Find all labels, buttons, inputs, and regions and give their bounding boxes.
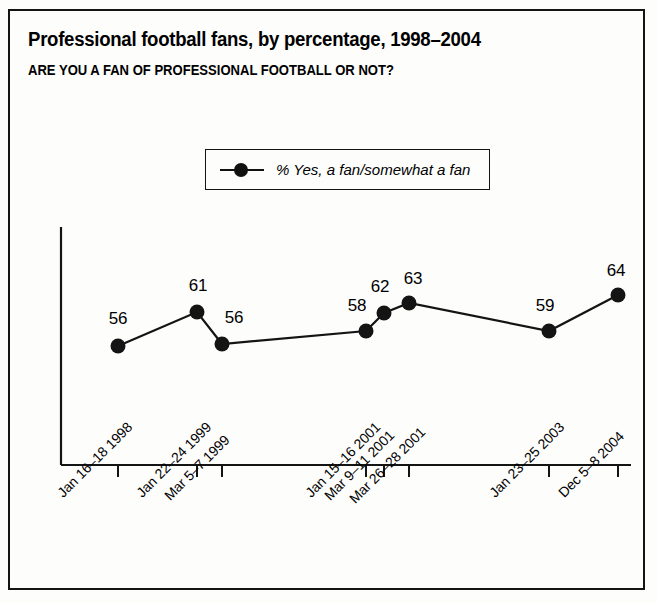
data-point <box>377 306 392 321</box>
data-point <box>542 324 557 339</box>
data-label: 62 <box>371 277 390 297</box>
data-point <box>111 339 126 354</box>
chart-figure: Professional football fans, by percentag… <box>0 0 657 603</box>
data-label: 59 <box>536 296 555 316</box>
data-point <box>215 337 230 352</box>
data-label: 56 <box>225 308 244 328</box>
data-point <box>402 296 417 311</box>
plot-area <box>0 0 657 603</box>
data-point <box>190 305 205 320</box>
data-point <box>359 324 374 339</box>
data-label: 61 <box>189 276 208 296</box>
data-label: 56 <box>109 309 128 329</box>
data-point <box>611 288 626 303</box>
data-label: 64 <box>607 261 626 281</box>
data-label: 63 <box>404 269 423 289</box>
data-label: 58 <box>348 296 367 316</box>
